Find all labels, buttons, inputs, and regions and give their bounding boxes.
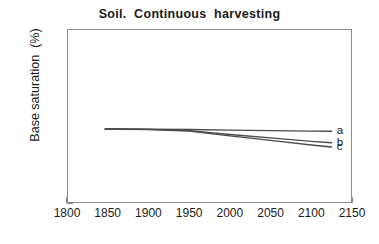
plot-area <box>67 29 352 203</box>
chart-figure: Soil. Continuous harvesting Base saturat… <box>0 0 379 244</box>
series-label-c: c <box>337 140 351 152</box>
chart-title: Soil. Continuous harvesting <box>0 7 379 21</box>
y-axis-title: Base saturation (%) <box>28 0 42 175</box>
x-tick-label: 2150 <box>326 206 378 220</box>
series-label-a: a <box>337 124 351 136</box>
